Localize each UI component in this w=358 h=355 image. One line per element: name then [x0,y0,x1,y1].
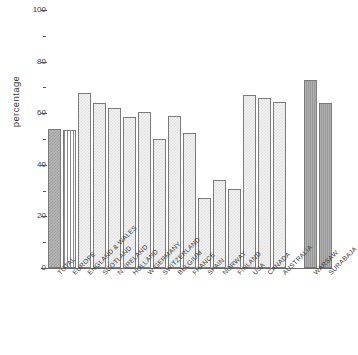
bar [319,103,332,268]
bar [273,102,286,268]
y-tick-label: 60 [0,108,46,118]
bar [243,95,256,268]
y-tick-label: 40 [0,160,46,170]
y-tick-mark-minor [43,139,46,140]
bar [258,98,271,268]
bar [93,103,106,268]
y-tick-mark-minor [43,87,46,88]
bar [78,93,91,268]
y-axis-title: percentage [10,57,21,147]
y-tick-label: 100 [0,5,46,15]
plot-area [47,10,332,268]
y-tick-label: 0 [0,263,46,273]
y-tick-label: 80 [0,57,46,67]
bar [63,130,76,268]
bar [48,129,61,268]
y-tick-mark-minor [43,242,46,243]
y-tick-mark-minor [43,36,46,37]
y-tick-label: 20 [0,211,46,221]
bar [304,80,317,268]
y-tick-mark-minor [43,191,46,192]
